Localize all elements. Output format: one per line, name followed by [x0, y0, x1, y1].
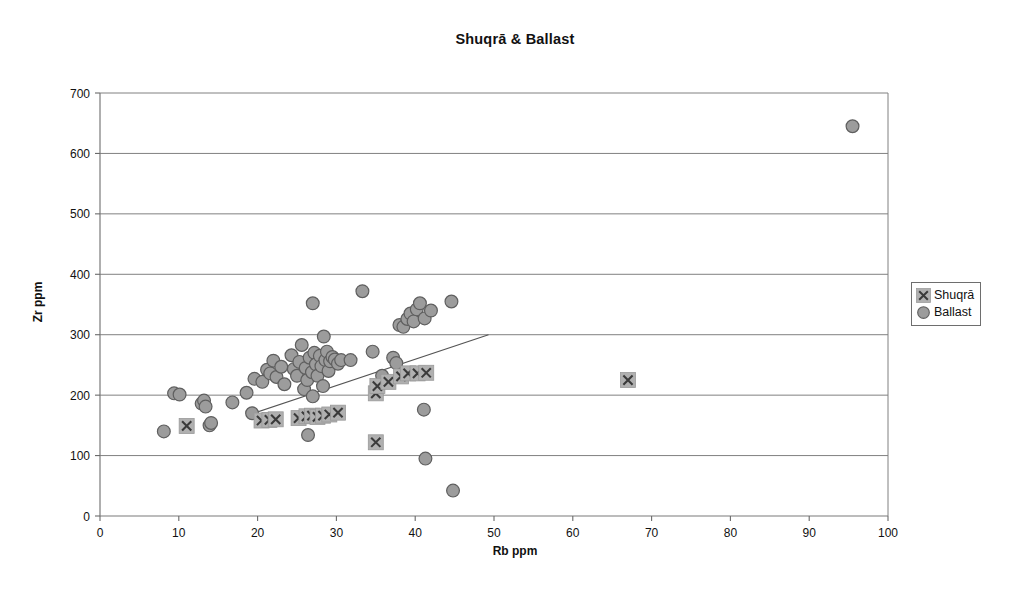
- y-tick-labels: 0100200300400500600700: [70, 87, 90, 524]
- data-point: [846, 120, 859, 133]
- data-point: [205, 417, 218, 430]
- svg-text:100: 100: [878, 526, 898, 540]
- data-point: [356, 285, 369, 298]
- data-point: [317, 330, 330, 343]
- data-point: [419, 365, 434, 380]
- data-point: [414, 297, 427, 310]
- legend-label-shuqra: Shuqrā: [934, 289, 974, 302]
- tick-marks: [95, 93, 888, 521]
- shuqra-marker-icon: [916, 288, 931, 303]
- svg-text:70: 70: [645, 526, 659, 540]
- svg-text:100: 100: [70, 449, 90, 463]
- data-point: [620, 373, 635, 388]
- svg-text:50: 50: [487, 526, 501, 540]
- data-point: [366, 345, 379, 358]
- data-point: [306, 390, 319, 403]
- data-point: [268, 412, 283, 427]
- data-point: [275, 360, 288, 373]
- data-point: [330, 405, 345, 420]
- svg-text:10: 10: [172, 526, 186, 540]
- svg-text:30: 30: [330, 526, 344, 540]
- svg-text:400: 400: [70, 268, 90, 282]
- gridlines: [100, 93, 888, 456]
- data-point: [226, 396, 239, 409]
- scatter-plot: 0100200300400500600700 01020304050607080…: [0, 0, 1030, 597]
- data-point: [199, 400, 212, 413]
- svg-text:200: 200: [70, 389, 90, 403]
- data-point: [368, 435, 383, 450]
- svg-text:700: 700: [70, 87, 90, 101]
- svg-text:0: 0: [97, 526, 104, 540]
- chart-figure: Shuqrā & Ballast 0100200300400500600700 …: [0, 0, 1030, 597]
- svg-text:40: 40: [409, 526, 423, 540]
- data-point: [179, 418, 194, 433]
- data-point: [306, 297, 319, 310]
- data-point: [278, 378, 291, 391]
- data-point: [425, 304, 438, 317]
- y-axis-title: Zr ppm: [31, 242, 45, 362]
- svg-text:300: 300: [70, 328, 90, 342]
- data-point: [157, 425, 170, 438]
- data-point: [317, 380, 330, 393]
- legend-item-shuqra[interactable]: Shuqrā: [916, 287, 974, 304]
- svg-text:500: 500: [70, 207, 90, 221]
- svg-text:80: 80: [724, 526, 738, 540]
- data-point: [173, 388, 186, 401]
- ballast-marker-icon: [916, 305, 931, 320]
- svg-text:20: 20: [251, 526, 265, 540]
- plot-frame: [100, 93, 888, 516]
- data-point: [419, 452, 432, 465]
- data-point: [295, 339, 308, 352]
- data-series-ballast: [157, 120, 859, 497]
- x-tick-labels: 0102030405060708090100: [97, 526, 899, 540]
- x-axis-title: Rb ppm: [0, 544, 1030, 558]
- chart-legend: Shuqrā Ballast: [911, 282, 981, 326]
- data-point: [240, 386, 253, 399]
- svg-text:0: 0: [83, 510, 90, 524]
- svg-text:600: 600: [70, 147, 90, 161]
- svg-text:60: 60: [566, 526, 580, 540]
- data-point: [447, 484, 460, 497]
- data-point: [445, 295, 458, 308]
- legend-label-ballast: Ballast: [934, 306, 972, 319]
- legend-item-ballast[interactable]: Ballast: [916, 304, 974, 321]
- data-point: [417, 403, 430, 416]
- data-point: [344, 354, 357, 367]
- data-point: [302, 429, 315, 442]
- svg-text:90: 90: [803, 526, 817, 540]
